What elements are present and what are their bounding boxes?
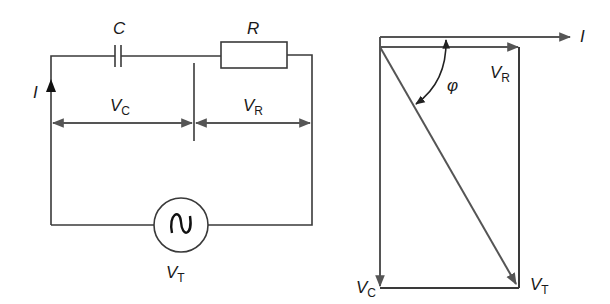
phase-angle-label: φ (447, 76, 458, 95)
phasor-diagram: I VR φ VC VT (356, 27, 585, 300)
right-wire (208, 55, 312, 225)
rc-series-circuit-figure: C R I VC VR VT I VR φ VC VT (0, 0, 610, 304)
phasor-vr-label: VR (490, 63, 510, 85)
current-arrow-icon (46, 79, 56, 92)
phase-angle-arc (416, 40, 446, 104)
ac-source-icon (154, 198, 208, 252)
phasor-vc-label: VC (356, 278, 376, 300)
vc-label: VC (110, 96, 130, 118)
left-wire (51, 56, 115, 225)
vr-label: VR (243, 96, 263, 118)
phasor-current-label: I (580, 27, 585, 46)
phasor-vt-label: VT (530, 275, 549, 297)
current-label: I (33, 83, 38, 102)
circuit-diagram: C R I VC VR VT (33, 19, 312, 285)
resistor-icon (221, 42, 287, 68)
capacitor-label: C (113, 19, 126, 38)
vt-label: VT (166, 263, 185, 285)
resistor-label: R (247, 19, 259, 38)
capacitor-icon (115, 45, 121, 67)
